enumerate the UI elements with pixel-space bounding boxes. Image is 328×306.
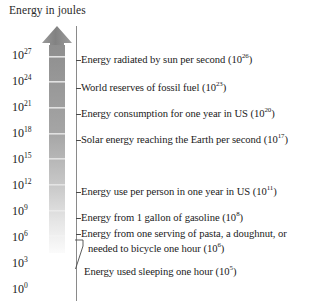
annotation-tail: ) (223, 82, 226, 93)
scale-exponent: 12 (24, 177, 32, 186)
annotation-tail: ) (240, 212, 243, 223)
annotation-sleeping-one-hour: Energy used sleeping one hour (105) (84, 266, 236, 277)
annotation-text: Energy use per person in one year in US … (81, 186, 267, 197)
scale-exponent: 24 (24, 73, 32, 82)
scale-exponent: 6 (24, 229, 28, 238)
scale-exponent: 18 (24, 125, 32, 134)
annotation-gallon-gasoline: Energy from 1 gallon of gasoline (108) (81, 212, 243, 223)
annotation-us-annual-consumption: Energy consumption for one year in US (1… (81, 108, 275, 119)
scale-label-1e21: 1021 (12, 100, 32, 115)
scale-label-1e27: 1027 (12, 48, 32, 63)
scale-label-1e24: 1024 (12, 74, 32, 89)
annotation-text: Energy used sleeping one hour (10 (84, 266, 230, 277)
annotation-text: Energy from one serving of pasta, a doug… (81, 228, 287, 239)
annotation-text: Energy consumption for one year in US (1… (81, 108, 264, 119)
annotation-tail: ) (271, 108, 274, 119)
annotation-pasta-doughnut-line2: needed to bicycle one hour (106) (88, 243, 224, 254)
scale-label-1e18: 1018 (12, 126, 32, 141)
scale-exponent: 9 (24, 203, 28, 212)
annotation-text: Energy radiated by sun per second (10 (81, 54, 242, 65)
annotation-tail: ) (233, 266, 236, 277)
annotation-exponent: 23 (216, 80, 223, 87)
scale-label-1e3: 103 (12, 256, 28, 271)
scale-exponent: 21 (24, 99, 32, 108)
scale-label-1e9: 109 (12, 204, 28, 219)
annotation-text: Energy from 1 gallon of gasoline (10 (81, 212, 236, 223)
scale-label-1e0: 100 (12, 282, 28, 297)
scale-label-1e6: 106 (12, 230, 28, 245)
scale-exponent: 0 (24, 281, 28, 290)
energy-scale-figure: Energy in joules (0, 0, 328, 306)
annotation-tail: ) (221, 243, 224, 254)
annotation-sun-per-second: Energy radiated by sun per second (1026) (81, 54, 252, 65)
annotation-text: Solar energy reaching the Earth per seco… (81, 134, 278, 145)
annotation-tail: ) (273, 186, 276, 197)
scale-exponent: 15 (24, 151, 32, 160)
annotation-per-person-us: Energy use per person in one year in US … (81, 186, 277, 197)
annotation-fossil-fuel: World reserves of fossil fuel (1023) (81, 82, 226, 93)
annotation-text: needed to bicycle one hour (10 (88, 243, 217, 254)
scale-exponent: 27 (24, 47, 32, 56)
annotation-tail: ) (284, 134, 287, 145)
magnitude-arrow (40, 25, 76, 253)
scale-exponent: 3 (24, 255, 28, 264)
scale-label-1e15: 1015 (12, 152, 32, 167)
annotation-tail: ) (249, 54, 252, 65)
annotation-text: World reserves of fossil fuel (10 (81, 82, 216, 93)
annotation-exponent: 26 (242, 52, 249, 59)
figure-title: Energy in joules (9, 4, 86, 16)
scale-label-1e12: 1012 (12, 178, 32, 193)
annotation-pasta-doughnut-line1: Energy from one serving of pasta, a doug… (81, 228, 287, 239)
annotation-solar-energy-earth: Solar energy reaching the Earth per seco… (81, 134, 288, 145)
